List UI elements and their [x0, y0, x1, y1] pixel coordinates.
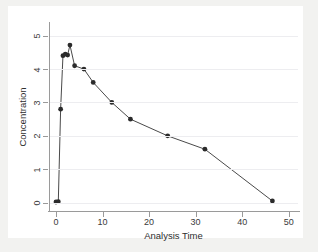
data-point [65, 53, 70, 58]
data-point [72, 63, 77, 68]
y-tick-label-0: 0 [33, 201, 42, 206]
x-tick-label-3: 30 [191, 218, 201, 227]
y-axis-line [49, 22, 50, 212]
y-tick-label-5: 5 [33, 34, 42, 39]
x-axis-title: Analysis Time [49, 230, 298, 241]
y-tick-label-3: 3 [33, 100, 42, 105]
y-tick-label-wrap-2: 2 [43, 136, 48, 137]
gridline-y-0 [49, 203, 298, 204]
x-tick-label-4: 40 [237, 218, 247, 227]
x-axis-line [48, 211, 300, 212]
gridline-y-2 [49, 136, 298, 137]
y-tick-label-wrap-1: 1 [43, 169, 48, 170]
y-tick-label-1: 1 [33, 167, 42, 172]
y-tick-label-4: 4 [33, 67, 42, 72]
y-tick-label-wrap-5: 5 [43, 36, 48, 37]
gridline-y-5 [49, 36, 298, 37]
data-point [68, 43, 73, 48]
x-tick-label-5: 50 [284, 218, 294, 227]
y-tick-label-wrap-3: 3 [43, 102, 48, 103]
data-point [128, 117, 133, 122]
data-point [91, 80, 96, 85]
data-series-layer [49, 24, 298, 210]
gridline-y-4 [49, 69, 298, 70]
y-tick-label-2: 2 [33, 134, 42, 139]
data-point [203, 147, 208, 152]
gridline-y-3 [49, 102, 298, 103]
data-point [58, 107, 63, 112]
plot-canvas: Analysis Time Concentration 012345010203… [8, 6, 303, 238]
y-tick-label-wrap-4: 4 [43, 69, 48, 70]
y-axis-title: Concentration [17, 87, 28, 146]
chart-figure: Analysis Time Concentration 012345010203… [0, 0, 318, 252]
x-tick-label-2: 20 [144, 218, 154, 227]
y-tick-label-wrap-0: 0 [43, 203, 48, 204]
gridline-y-1 [49, 169, 298, 170]
plot-area [49, 24, 298, 210]
x-tick-label-1: 10 [98, 218, 108, 227]
x-tick-label-0: 0 [53, 218, 58, 227]
